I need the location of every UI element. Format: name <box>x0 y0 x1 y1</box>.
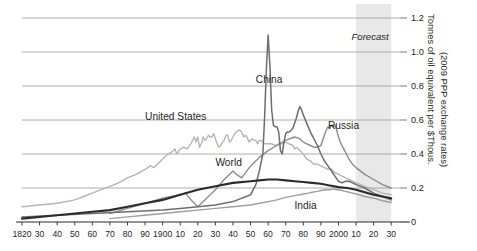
forecast-annotation-label: Forecast <box>351 31 389 42</box>
x-tick-label: 80 <box>123 229 133 239</box>
gridlines <box>22 18 400 188</box>
series-label-china: China <box>256 74 283 85</box>
y-tick-label: 0.6 <box>411 115 424 125</box>
x-tick-label: 60 <box>263 229 273 239</box>
y-tick-label: 1.0 <box>411 47 424 57</box>
x-tick-label: 50 <box>246 229 256 239</box>
y-tick-label: 0 <box>411 217 416 227</box>
x-tick-label: 30 <box>386 229 396 239</box>
x-tick-label: 60 <box>88 229 98 239</box>
x-tick-label: 40 <box>52 229 62 239</box>
series-label-united-states: United States <box>145 111 206 122</box>
x-tick-label: 1820 <box>12 229 31 239</box>
x-tick-label: 10 <box>351 229 361 239</box>
y-tick-label: 0.4 <box>411 149 424 159</box>
series-label-russia: Russia <box>328 120 359 131</box>
series-label-india: India <box>295 200 317 211</box>
energy-intensity-chart: 1820304050607080901900102030405060708090… <box>0 0 477 251</box>
x-tick-label: 40 <box>228 229 238 239</box>
right-axis-title-line1: Tonnes of oil equivalent per $Thous. <box>426 14 437 165</box>
y-axis-tick-labels: 00.20.40.60.81.01.2 <box>411 13 424 227</box>
y-axis-ticks <box>400 18 407 222</box>
y-tick-label: 0.2 <box>411 183 424 193</box>
x-tick-label: 1900 <box>153 229 172 239</box>
x-tick-label: 20 <box>193 229 203 239</box>
x-tick-label: 20 <box>369 229 379 239</box>
x-tick-label: 80 <box>299 229 309 239</box>
x-tick-label: 90 <box>316 229 326 239</box>
x-tick-label: 10 <box>175 229 185 239</box>
x-tick-label: 30 <box>35 229 45 239</box>
series-line-russia <box>110 125 391 213</box>
x-tick-label: 70 <box>105 229 115 239</box>
x-axis <box>16 222 410 226</box>
series-line-united-states <box>22 130 391 207</box>
y-tick-label: 0.8 <box>411 81 424 91</box>
x-tick-label: 70 <box>281 229 291 239</box>
right-axis-title-line2: (2009 PPP exchange rates) <box>439 52 450 167</box>
y-tick-label: 1.2 <box>411 13 424 23</box>
chart-canvas: 1820304050607080901900102030405060708090… <box>0 0 477 251</box>
x-tick-label: 2000 <box>329 229 348 239</box>
series-label-world: World <box>215 157 242 168</box>
x-tick-label: 50 <box>70 229 80 239</box>
x-tick-label: 90 <box>140 229 150 239</box>
x-axis-tick-labels: 1820304050607080901900102030405060708090… <box>12 229 396 239</box>
x-tick-label: 30 <box>211 229 221 239</box>
